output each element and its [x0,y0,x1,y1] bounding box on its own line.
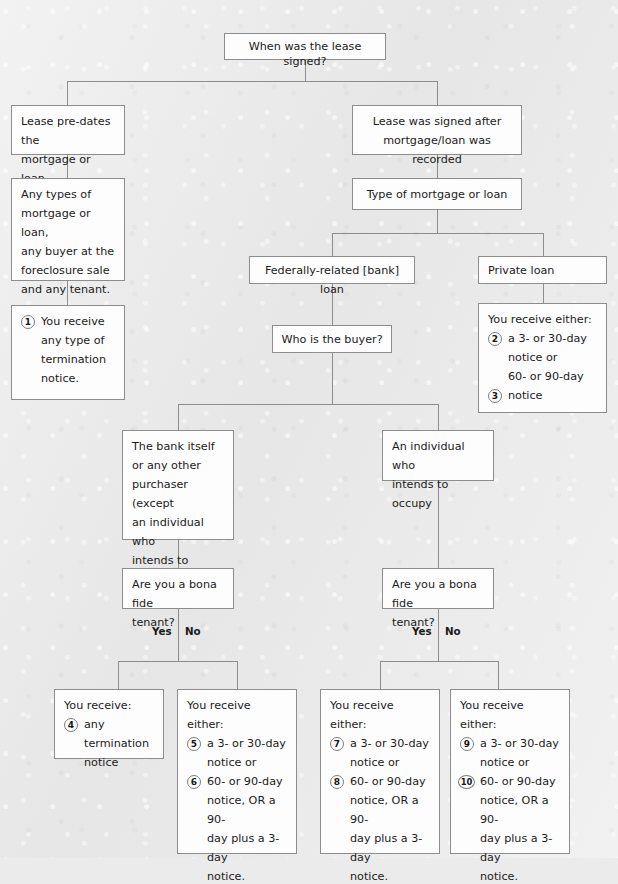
outcome-3-pre: 60- or 90-day [488,367,597,386]
page-header-artifact: · · [325,1,337,8]
outcome-9-line2: notice or [480,753,560,772]
outcome-3-pre-line: 60- or 90-day [508,370,584,383]
outcome-1-line4: notice. [41,369,115,388]
node-bona-fide-left-line2: tenant? [132,613,224,632]
node-any-types[interactable]: Any types of mortgage or loan, any buyer… [11,178,125,281]
node-private-loan[interactable]: Private loan [478,256,607,284]
node-any-types-line2: mortgage or loan, [21,204,115,242]
badge-number-2: 2 [488,332,502,346]
outcome-7-8-list: 7 a 3- or 30-day notice or 8 60- or 90-d… [330,734,430,884]
node-root-question[interactable]: When was the lease signed? [224,33,386,60]
outcome-2-3-list: 2 a 3- or 30-day notice or 60- or 90-day… [488,329,597,405]
node-lease-after-recorded-line2: mortgage/loan was recorded [359,131,515,169]
node-lease-pre-dates[interactable]: Lease pre-dates the mortgage or loan [11,105,125,155]
node-bona-fide-right[interactable]: Are you a bona fide tenant? [382,568,494,609]
outcome-7-8-lead: You receive either: [330,696,430,734]
outcome-1-item: 1 You receive any type of termination no… [21,312,115,388]
node-bank-itself-line4: an individual who [132,513,224,551]
node-individual-occupy-line1: An individual who [392,437,484,475]
outcome-7-item: 7 a 3- or 30-day notice or [330,734,430,772]
outcome-1-line1: You receive [41,315,105,328]
outcome-6-item: 6 60- or 90-day notice, OR a 90- day plu… [187,772,287,884]
node-bona-fide-right-line2: tenant? [392,613,484,632]
node-bona-fide-right-line1: Are you a bona fide [392,575,484,613]
outcome-6-line3: day plus a 3-day [207,829,287,867]
outcome-9-10-lead: You receive either: [460,696,560,734]
node-any-types-line3: any buyer at the [21,242,115,261]
node-federally-related-loan[interactable]: Federally-related [bank] loan [249,256,415,284]
outcome-7-line2: notice or [350,753,430,772]
outcome-2-line1: a 3- or 30-day [508,332,587,345]
node-outcome-7-8[interactable]: You receive either: 7 a 3- or 30-day not… [320,689,440,854]
node-outcome-2-3[interactable]: You receive either: 2 a 3- or 30-day not… [478,303,607,413]
outcome-1-list: 1 You receive any type of termination no… [21,312,115,388]
node-who-is-buyer[interactable]: Who is the buyer? [272,325,392,353]
badge-number-5: 5 [187,737,201,751]
node-bank-itself-line3: purchaser (except [132,475,224,513]
node-any-types-line5: and any tenant. [21,280,115,299]
outcome-8-line4: notice. [350,867,430,884]
outcome-5-6-lead: You receive either: [187,696,287,734]
branch-label-left-yes: Yes [152,625,172,638]
outcome-5-line1: a 3- or 30-day [207,737,286,750]
outcome-6-line2: notice, OR a 90- [207,791,287,829]
badge-number-9: 9 [460,737,474,751]
outcome-1-line2: any type of [41,331,115,350]
outcome-10-line1: 60- or 90-day [480,775,556,788]
node-bank-itself[interactable]: The bank itself or any other purchaser (… [122,430,234,540]
outcome-4-lead: You receive: [64,696,154,715]
outcome-5-item: 5 a 3- or 30-day notice or [187,734,287,772]
node-outcome-5-6[interactable]: You receive either: 5 a 3- or 30-day not… [177,689,297,854]
node-who-is-buyer-text: Who is the buyer? [281,333,382,346]
outcome-3-line1: notice [508,389,542,402]
outcome-10-line3: day plus a 3-day [480,829,560,867]
badge-number-8: 8 [330,775,344,789]
outcome-4-line2: notice [84,753,154,772]
node-outcome-9-10[interactable]: You receive either: 9 a 3- or 30-day not… [450,689,570,854]
node-individual-occupy[interactable]: An individual who intends to occupy [382,430,494,481]
outcome-6-line4: notice. [207,867,287,884]
badge-number-1: 1 [21,315,35,329]
outcome-2-item: 2 a 3- or 30-day notice or [488,329,597,367]
outcome-1-line3: termination [41,350,115,369]
outcome-9-line1: a 3- or 30-day [480,737,559,750]
node-bank-itself-line2: or any other [132,456,224,475]
outcome-2-3-lead: You receive either: [488,310,597,329]
node-outcome-1[interactable]: 1 You receive any type of termination no… [11,305,125,400]
outcome-8-line1: 60- or 90-day [350,775,426,788]
node-individual-occupy-line2: intends to occupy [392,475,484,513]
node-bona-fide-left-line1: Are you a bona fide [132,575,224,613]
node-any-types-line1: Any types of [21,185,115,204]
outcome-9-10-list: 9 a 3- or 30-day notice or 10 60- or 90-… [460,734,560,884]
outcome-3-item: 3 notice [488,386,597,405]
node-type-of-mortgage-text: Type of mortgage or loan [367,188,508,201]
branch-label-right-yes: Yes [412,625,432,638]
outcome-8-line3: day plus a 3-day [350,829,430,867]
branch-label-left-no: No [185,625,201,638]
badge-number-10: 10 [458,775,475,789]
node-any-types-line4: foreclosure sale [21,261,115,280]
outcome-8-item: 8 60- or 90-day notice, OR a 90- day plu… [330,772,430,884]
node-root-text: When was the lease signed? [249,40,362,68]
branch-label-right-no: No [445,625,461,638]
outcome-4-item: 4 any termination notice [64,715,154,772]
outcome-2-line2: notice or [508,348,597,367]
node-federally-related-loan-text: Federally-related [bank] loan [265,264,399,296]
node-lease-after-recorded-line1: Lease was signed after [359,112,515,131]
node-bona-fide-left[interactable]: Are you a bona fide tenant? [122,568,234,609]
node-outcome-4[interactable]: You receive: 4 any termination notice [54,689,164,759]
outcome-6-line1: 60- or 90-day [207,775,283,788]
badge-number-7: 7 [330,737,344,751]
outcome-4-line1: any termination [84,718,149,750]
outcome-5-6-list: 5 a 3- or 30-day notice or 6 60- or 90-d… [187,734,287,884]
badge-number-4: 4 [64,718,78,732]
node-private-loan-text: Private loan [488,264,554,277]
node-lease-after-recorded[interactable]: Lease was signed after mortgage/loan was… [352,105,522,155]
node-type-of-mortgage[interactable]: Type of mortgage or loan [352,178,522,210]
outcome-10-line2: notice, OR a 90- [480,791,560,829]
node-bank-itself-line1: The bank itself [132,437,224,456]
node-lease-pre-dates-line1: Lease pre-dates the [21,112,115,150]
outcome-10-item: 10 60- or 90-day notice, OR a 90- day pl… [460,772,560,884]
badge-number-6: 6 [187,775,201,789]
outcome-8-line2: notice, OR a 90- [350,791,430,829]
